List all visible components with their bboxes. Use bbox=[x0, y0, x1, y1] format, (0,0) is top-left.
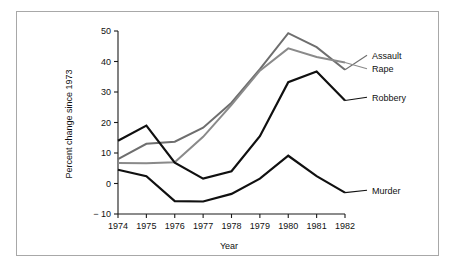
y-tick-label: 50 bbox=[101, 26, 111, 36]
x-tick-label: 1974 bbox=[108, 221, 128, 231]
series-label-murder: Murder bbox=[372, 186, 401, 196]
x-tick-label: 1975 bbox=[136, 221, 156, 231]
series-label-rape: Rape bbox=[372, 64, 394, 74]
y-axis-title: Percent change since 1973 bbox=[64, 69, 74, 178]
y-tick-label: 40 bbox=[101, 57, 111, 67]
series-label-robbery: Robbery bbox=[372, 93, 407, 103]
x-tick-label: 1979 bbox=[250, 221, 270, 231]
x-tick-label: 1977 bbox=[193, 221, 213, 231]
y-tick-label: 30 bbox=[101, 87, 111, 97]
figure-canvas: − 1001020304050 197419751976197719781979… bbox=[0, 0, 454, 279]
x-axis-title: Year bbox=[220, 241, 238, 251]
series-line-rape bbox=[118, 48, 345, 163]
series-line-assault bbox=[118, 33, 345, 159]
y-tick-label: 0 bbox=[106, 179, 111, 189]
x-tick-label: 1976 bbox=[165, 221, 185, 231]
line-chart: − 1001020304050 197419751976197719781979… bbox=[0, 0, 454, 279]
y-tick-label: − 10 bbox=[93, 209, 111, 219]
x-axis-tick-labels: 197419751976197719781979198019811982 bbox=[108, 221, 355, 231]
data-series-group bbox=[118, 33, 345, 201]
y-tick-label: 10 bbox=[101, 148, 111, 158]
y-axis-ticks bbox=[114, 31, 118, 214]
x-tick-label: 1982 bbox=[335, 221, 355, 231]
x-axis-ticks bbox=[118, 214, 345, 218]
y-axis-tick-labels: − 1001020304050 bbox=[93, 26, 111, 219]
leader-line-robbery bbox=[345, 97, 367, 100]
leader-line-murder bbox=[345, 190, 367, 192]
x-tick-label: 1978 bbox=[221, 221, 241, 231]
x-tick-label: 1980 bbox=[278, 221, 298, 231]
series-label-assault: Assault bbox=[372, 51, 402, 61]
y-tick-label: 20 bbox=[101, 118, 111, 128]
series-labels-group: AssaultRapeRobberyMurder bbox=[345, 51, 407, 196]
x-tick-label: 1981 bbox=[307, 221, 327, 231]
